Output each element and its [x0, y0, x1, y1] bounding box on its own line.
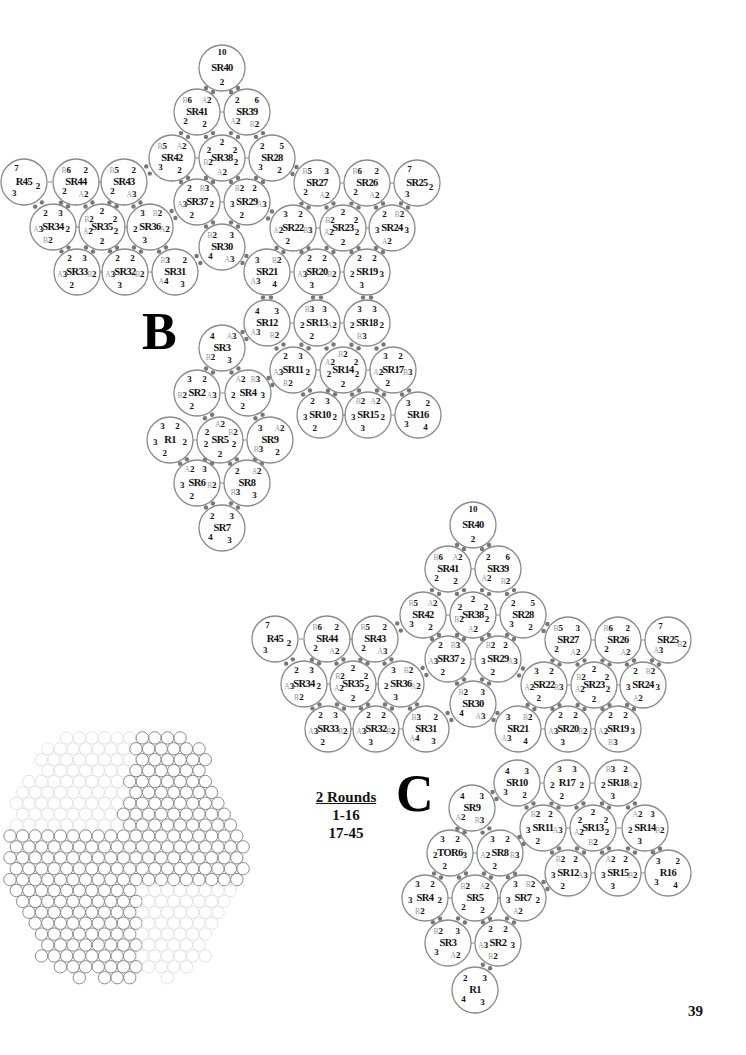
stitch-count: A2 — [628, 780, 638, 790]
stitch-count: 3 — [611, 791, 616, 801]
stitch-count: 4 — [423, 422, 428, 432]
ring-sr33: SR3323B22A3 — [305, 706, 351, 752]
thumbnail-ring — [168, 917, 180, 929]
stitch-count: 2 — [202, 374, 207, 384]
thumbnail-ring — [98, 754, 110, 766]
ring-sr35: SR352B22A222 — [79, 204, 125, 250]
ring-sr27: SR27B53A22 — [545, 617, 591, 663]
thumbnail-ring — [73, 884, 85, 896]
stitch-count: A2 — [456, 812, 466, 822]
stitch-count: A3 — [227, 331, 237, 341]
stitch-count: 3 — [261, 390, 266, 400]
join-dot — [491, 718, 495, 722]
thumbnail-ring — [73, 950, 85, 962]
stitch-count: 3 — [202, 464, 207, 474]
stitch-count: B5 — [158, 141, 168, 151]
stitch-count: 2 — [505, 834, 510, 844]
join-dot — [299, 342, 303, 346]
thumbnail-ring — [86, 732, 98, 744]
stitch-count: 2 — [623, 854, 628, 864]
thumbnail-ring — [149, 906, 161, 918]
join-dot — [91, 249, 95, 253]
stitch-count: 2 — [70, 280, 75, 290]
thumbnail-ring — [98, 863, 110, 875]
ring-sr9: SR943B3A2 — [449, 785, 495, 831]
stitch-count: 2 — [233, 145, 238, 155]
stitch-count: 2 — [133, 224, 138, 234]
stitch-count: A3 — [502, 733, 512, 743]
thumbnail-ring — [117, 830, 129, 842]
ring-sr39: SR3926B2A2 — [475, 546, 521, 592]
thumbnail-ring — [67, 830, 79, 842]
stitch-count: 4 — [461, 994, 466, 1004]
join-dot — [40, 200, 44, 204]
stitch-count: 3 — [180, 480, 185, 490]
join-dot — [361, 295, 365, 299]
join-dot — [456, 916, 460, 920]
ring-label: SR19 — [607, 723, 629, 734]
thumbnail-ring — [79, 808, 91, 820]
stitch-count: 2 — [433, 850, 438, 860]
thumbnail-ring — [205, 917, 217, 929]
thumbnail-ring — [174, 884, 186, 896]
stitch-count: B2 — [235, 183, 245, 193]
stitch-count: A2 — [633, 693, 643, 703]
join-dot — [138, 200, 142, 204]
thumbnail-ring — [199, 797, 211, 809]
thumbnail-ring — [161, 797, 173, 809]
thumbnail-ring — [205, 852, 217, 864]
stitch-count: B6 — [183, 95, 193, 105]
stitch-count: 3 — [274, 306, 279, 316]
thumbnail-ring — [168, 830, 180, 842]
thumbnail-ring — [86, 841, 98, 853]
ring-sr43: SR43B52A32 — [352, 616, 398, 662]
stitch-count: B2 — [526, 879, 536, 889]
thumbnail-ring — [10, 841, 22, 853]
stitch-count: A2 — [480, 881, 490, 891]
ring-label: SR28 — [261, 152, 283, 163]
thumbnail-ring — [155, 786, 167, 798]
thumbnail-ring — [124, 928, 136, 940]
stitch-count: B2 — [415, 906, 425, 916]
stitch-count: 2 — [177, 165, 182, 175]
thumbnail-ring — [149, 797, 161, 809]
ring-label: SR12 — [557, 867, 579, 878]
thumbnail-ring — [130, 873, 142, 885]
thumbnail-ring — [155, 873, 167, 885]
thumbnail-ring — [35, 775, 47, 787]
join-dot — [445, 711, 449, 715]
stitch-count: 3 — [187, 374, 192, 384]
thumbnail-ring — [161, 972, 173, 984]
diagram-c: SR40102SR41B6A222SR3926B2A2SR42B5A223SR3… — [252, 502, 691, 1013]
join-dot — [331, 342, 335, 346]
join-dot — [204, 505, 208, 509]
ring-label: SR43 — [364, 633, 386, 644]
stitch-count: 3 — [380, 269, 385, 279]
ring-label: SR7 — [515, 892, 532, 903]
ring-label: SR26 — [356, 177, 378, 188]
stitch-count: 2 — [380, 320, 385, 330]
join-dot — [457, 875, 461, 879]
stitch-count: 2 — [386, 378, 391, 388]
join-dot — [299, 201, 303, 205]
thumbnail-ring — [174, 841, 186, 853]
thumbnail-ring — [180, 764, 192, 776]
thumbnail-ring — [218, 895, 230, 907]
join-dot — [541, 629, 545, 633]
thumbnail-ring — [67, 873, 79, 885]
thumbnail-ring — [16, 786, 28, 798]
ring-label: SR10 — [506, 777, 528, 788]
join-dot — [335, 702, 339, 706]
thumbnail-ring — [48, 884, 60, 896]
ring-label: SR25 — [657, 634, 679, 645]
stitch-count: 3 — [357, 304, 362, 314]
stitch-count: 2 — [190, 210, 195, 220]
thumbnail-ring — [117, 961, 129, 973]
rounds-range-2: 17-45 — [300, 824, 392, 842]
stitch-count: 2 — [364, 671, 369, 681]
thumbnail-ring — [98, 950, 110, 962]
stitch-count: 2 — [606, 684, 611, 694]
stitch-count: 2 — [355, 227, 360, 237]
stitch-count: 2 — [163, 448, 168, 458]
thumbnail-ring — [168, 852, 180, 864]
